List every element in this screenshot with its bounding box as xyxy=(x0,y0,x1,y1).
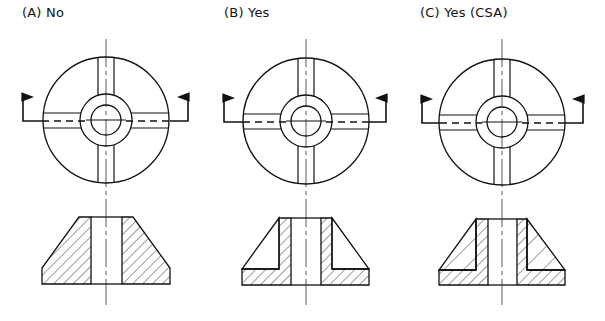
panel-b-section-view xyxy=(242,218,369,285)
technical-drawing xyxy=(0,0,605,321)
